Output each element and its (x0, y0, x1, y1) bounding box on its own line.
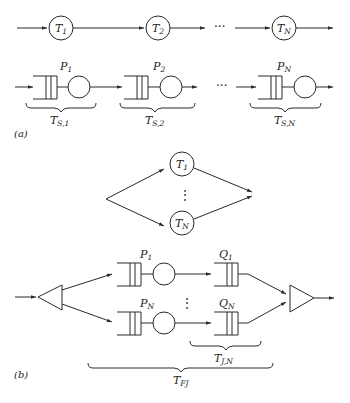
svg-text:TS,N: TS,N (274, 114, 296, 128)
svg-text:TFJ: TFJ (173, 374, 190, 388)
branch-1: P1 Q1 (117, 248, 286, 294)
node-tn-parallel: TN (170, 211, 194, 235)
svg-text:TJ,N: TJ,N (214, 352, 233, 366)
branch-n: PN QN (117, 297, 286, 335)
node-tn: TN (272, 16, 296, 40)
part-a-tag: (a) (14, 128, 28, 139)
part-b-tag: (b) (14, 369, 28, 380)
ellipsis: ··· (216, 79, 227, 93)
ellipsis: ··· (214, 20, 225, 34)
fork-join-network: P1 Q1 ⋮ PN QN (15, 248, 334, 388)
svg-text:QN: QN (219, 297, 235, 311)
vertical-ellipsis: ⋮ (179, 188, 191, 202)
node-t2: T2 (146, 16, 170, 40)
parallel-t-nodes: T1 ⋮ TN (106, 152, 252, 235)
brace-ts2 (120, 103, 195, 112)
queue-station-row: P1 TS,1 P2 TS,2 ··· PN (15, 60, 333, 128)
svg-text:TS,2: TS,2 (145, 114, 165, 128)
brace-ts1 (26, 103, 96, 112)
join-triangle-icon (290, 285, 314, 312)
svg-text:Q1: Q1 (219, 248, 233, 262)
node-t1: T1 (49, 16, 73, 40)
brace-tsn (250, 103, 321, 112)
fork-triangle-icon (38, 285, 62, 310)
svg-text:P2: P2 (152, 60, 165, 74)
svg-text:P1: P1 (59, 60, 72, 74)
brace-tjn (190, 341, 261, 350)
fork-join-diagram: T1 T2 ··· TN P1 TS,1 (0, 0, 350, 403)
svg-text:TS,1: TS,1 (50, 114, 69, 128)
svg-text:PN: PN (139, 297, 154, 311)
station-p2: P2 TS,2 (120, 60, 197, 128)
brace-tfj (88, 363, 273, 372)
station-p1: P1 TS,1 (26, 60, 122, 128)
tandem-row: T1 T2 ··· TN (17, 16, 333, 40)
node-t1-parallel: T1 (170, 152, 194, 176)
station-pn: PN TS,N (250, 60, 333, 128)
vertical-ellipsis: ⋮ (181, 296, 193, 310)
svg-text:P1: P1 (139, 248, 152, 262)
svg-text:PN: PN (276, 60, 291, 74)
